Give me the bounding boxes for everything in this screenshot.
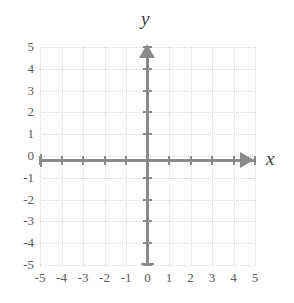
y-axis-tick (143, 264, 152, 266)
y-tick-label: 4 (14, 62, 34, 76)
x-axis-tick (125, 156, 127, 165)
x-axis-arrow-icon (240, 152, 254, 168)
y-tick-label: 0 (14, 149, 34, 163)
x-tick-label: 4 (222, 271, 246, 285)
x-tick-label: -2 (93, 271, 117, 285)
x-axis-tick (254, 156, 256, 165)
x-axis-tick (104, 156, 106, 165)
y-tick-label: -1 (14, 171, 34, 185)
y-axis-tick (143, 177, 152, 179)
coordinate-plane: -5-4-3-2-1012345 543210-1-2-3-4-5 y x (0, 0, 294, 303)
x-tick-label: -3 (71, 271, 95, 285)
x-tick-label: 5 (243, 271, 267, 285)
y-axis-tick (143, 68, 152, 70)
x-axis-tick (233, 156, 235, 165)
x-axis-tick (168, 156, 170, 165)
x-tick-label: 3 (200, 271, 224, 285)
y-axis-tick (143, 90, 152, 92)
y-tick-label: 5 (14, 40, 34, 54)
x-axis-tick (82, 156, 84, 165)
x-axis-label: x (266, 148, 274, 170)
x-axis-tick (190, 156, 192, 165)
x-axis-tick (211, 156, 213, 165)
y-tick-label: -4 (14, 236, 34, 250)
x-tick-label: 1 (157, 271, 181, 285)
x-tick-label: 2 (179, 271, 203, 285)
x-axis-tick (61, 156, 63, 165)
y-tick-label: 3 (14, 84, 34, 98)
y-tick-label: -5 (14, 258, 34, 272)
y-tick-label: 1 (14, 127, 34, 141)
x-axis-tick (39, 156, 41, 165)
y-axis-tick (143, 220, 152, 222)
x-tick-label: 0 (136, 271, 160, 285)
y-axis-tick (143, 199, 152, 201)
y-axis-tick (143, 111, 152, 113)
y-tick-label: -2 (14, 193, 34, 207)
y-axis-tick (143, 242, 152, 244)
y-axis-label: y (141, 8, 149, 30)
x-tick-label: -1 (114, 271, 138, 285)
y-axis-line (146, 47, 149, 265)
x-tick-label: -4 (50, 271, 74, 285)
y-tick-label: -3 (14, 214, 34, 228)
x-tick-label: -5 (28, 271, 52, 285)
y-tick-label: 2 (14, 105, 34, 119)
y-axis-tick (143, 46, 152, 48)
y-axis-tick (143, 133, 152, 135)
